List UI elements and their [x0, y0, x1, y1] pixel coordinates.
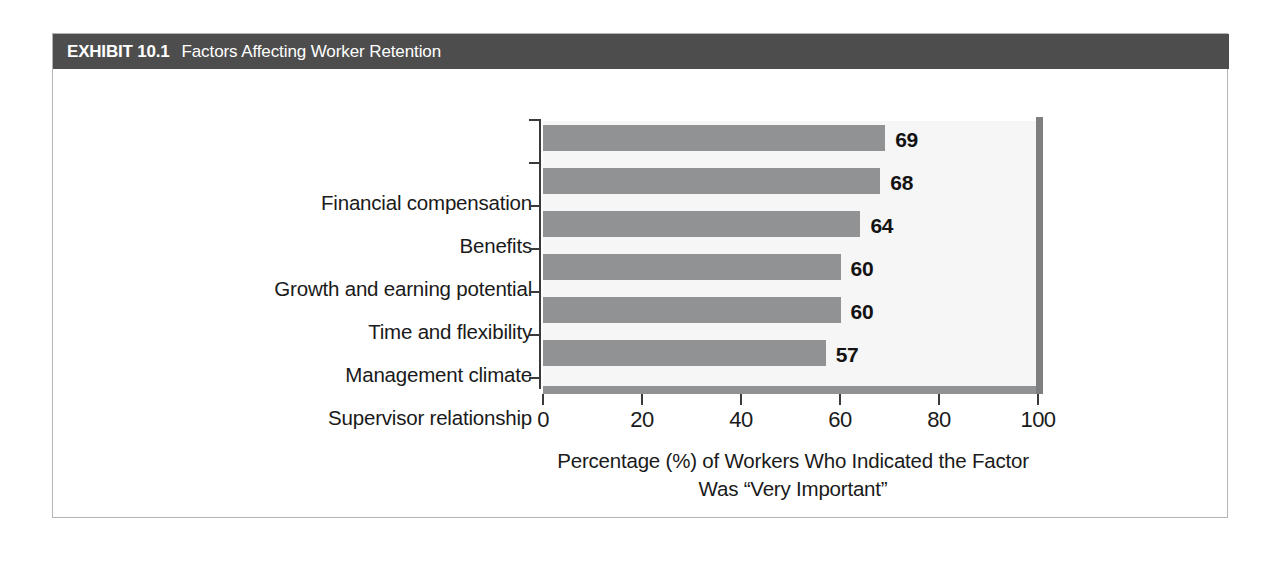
x-axis-tick-80	[938, 394, 940, 405]
x-axis-title-line-2: Was “Very Important”	[483, 475, 1103, 503]
x-axis-tick-label-40: 40	[729, 409, 752, 431]
y-axis-tick-4	[529, 291, 540, 293]
x-axis-tick-100	[1037, 394, 1039, 405]
y-axis-tick-3	[529, 248, 540, 250]
x-axis-tick-label-60: 60	[828, 409, 851, 431]
y-axis-tick-2	[529, 205, 540, 207]
bar-4	[543, 297, 841, 323]
category-label-3: Time and flexibility	[112, 322, 532, 343]
bar-3	[543, 254, 841, 280]
bar-value-0: 69	[895, 129, 918, 150]
x-axis-bar	[543, 386, 1039, 394]
bar-value-2: 64	[870, 215, 893, 236]
x-axis-tick-40	[740, 394, 742, 405]
bar-value-4: 60	[851, 301, 874, 322]
x-axis-tick-60	[839, 394, 841, 405]
x-axis-tick-label-80: 80	[927, 409, 950, 431]
bar-chart: Financial compensation Benefits Growth a…	[53, 69, 1229, 517]
x-axis-tick-label-100: 100	[1020, 409, 1055, 431]
bar-0	[543, 125, 885, 151]
y-axis-tick-6	[529, 377, 540, 379]
y-axis-tick-5	[529, 334, 540, 336]
x-axis-right-cap	[1036, 117, 1043, 394]
category-label-4: Management climate	[112, 365, 532, 386]
bar-5	[543, 340, 826, 366]
exhibit-number: EXHIBIT 10.1	[67, 42, 169, 62]
exhibit-frame: EXHIBIT 10.1 Factors Affecting Worker Re…	[52, 33, 1228, 518]
exhibit-header: EXHIBIT 10.1 Factors Affecting Worker Re…	[53, 34, 1229, 69]
plot-area	[543, 121, 1039, 386]
category-label-5: Supervisor relationship	[112, 408, 532, 429]
y-axis-line	[539, 119, 541, 389]
y-axis-tick-0	[529, 119, 540, 121]
exhibit-title: Factors Affecting Worker Retention	[181, 42, 441, 62]
x-axis-tick-20	[641, 394, 643, 405]
x-axis-tick-0	[542, 394, 544, 405]
bar-value-5: 57	[836, 344, 859, 365]
category-label-0: Financial compensation	[112, 193, 532, 214]
bar-value-1: 68	[890, 172, 913, 193]
bar-2	[543, 211, 860, 237]
x-axis-tick-label-0: 0	[537, 409, 549, 431]
x-axis-title-line-1: Percentage (%) of Workers Who Indicated …	[483, 447, 1103, 475]
bar-value-3: 60	[851, 258, 874, 279]
x-axis-tick-label-20: 20	[630, 409, 653, 431]
category-label-2: Growth and earning potential	[112, 279, 532, 300]
category-label-1: Benefits	[112, 236, 532, 257]
x-axis-title: Percentage (%) of Workers Who Indicated …	[483, 447, 1103, 502]
bar-1	[543, 168, 880, 194]
y-axis-tick-1	[529, 162, 540, 164]
